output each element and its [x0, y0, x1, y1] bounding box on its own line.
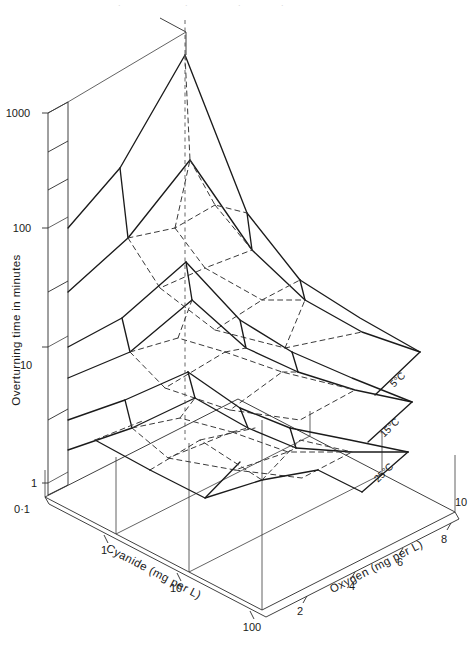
z-tick-label-1: 1 — [31, 477, 37, 489]
z-tick-label-100: 100 — [13, 222, 31, 234]
surface-15c: 15°C — [68, 262, 412, 442]
cropped-text-artifact: . . . . — [118, 0, 284, 8]
y-axis: 2 4 6 8 10 Oxygen (mg per L) — [297, 411, 467, 617]
z-axis-title: Overturning time in minutes — [10, 254, 22, 405]
svg-text:.: . — [281, 0, 284, 8]
z-axis-ticks — [42, 102, 68, 483]
z-tick-label-1000: 1000 — [6, 107, 30, 119]
svg-text:.: . — [238, 0, 241, 8]
lower-mesh-detail — [95, 420, 362, 498]
svg-text:.: . — [118, 0, 121, 8]
x-tick-label-100: 100 — [243, 621, 261, 633]
svg-text:.: . — [185, 0, 188, 8]
figure-root: . . . . — [0, 0, 470, 645]
surface-plot-figure: . . . . — [0, 0, 470, 645]
y-tick-label-8: 8 — [441, 533, 447, 545]
series-label-25c: 25°C — [372, 461, 396, 484]
base-plane — [45, 399, 459, 617]
z-tick-label-0.1: 0·1 — [14, 503, 30, 515]
series-label-5c: 5°C — [388, 370, 408, 390]
surface-5c: 5°C — [68, 55, 420, 395]
z-axis: 1000 100 10 1 0·1 Overturning time in mi… — [6, 102, 68, 515]
y-tick-label-10: 10 — [455, 496, 467, 508]
y-axis-title: Oxygen (mg per L) — [328, 538, 425, 595]
y-tick-label-2: 2 — [297, 605, 303, 617]
series-label-15c: 15°C — [378, 416, 402, 439]
